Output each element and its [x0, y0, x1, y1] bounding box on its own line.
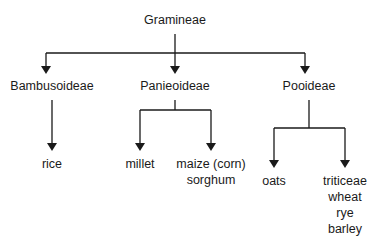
- node-label-line-2: wheat: [323, 189, 367, 205]
- node-oats: oats: [262, 173, 286, 189]
- node-gramineae: Gramineae: [144, 12, 206, 28]
- node-label-line-4: barley: [323, 221, 367, 237]
- arrow-to-bambusoideae: [41, 53, 51, 74]
- arrow-to-triticeae: [340, 128, 350, 168]
- node-label: Gramineae: [144, 12, 206, 28]
- node-triticeae: triticeae wheat rye barley: [323, 173, 367, 237]
- arrow-to-oats: [269, 128, 279, 168]
- node-label-line-1: triticeae: [323, 173, 367, 189]
- node-label: Pooideae: [283, 78, 336, 94]
- node-label-line-1: maize (corn): [176, 156, 245, 172]
- node-millet: millet: [125, 156, 154, 172]
- node-pooideae: Pooideae: [283, 78, 336, 94]
- arrow-to-millet: [135, 110, 145, 151]
- arrow-to-pooideae: [300, 53, 310, 74]
- node-label: oats: [262, 173, 286, 189]
- node-bambusoideae: Bambusoideae: [10, 78, 93, 94]
- node-label: rice: [42, 156, 62, 172]
- panieoideae-branch: [140, 100, 211, 110]
- pooideae-branch: [274, 100, 345, 128]
- arrow-to-panieoideae: [170, 53, 180, 74]
- node-label: millet: [125, 156, 154, 172]
- tree-edges: [0, 0, 378, 248]
- arrow-to-maize: [206, 110, 216, 151]
- node-label: Bambusoideae: [10, 78, 93, 94]
- node-label-line-2: sorghum: [176, 172, 245, 188]
- node-maize-sorghum: maize (corn) sorghum: [176, 156, 245, 188]
- arrow-to-rice: [47, 100, 57, 151]
- node-label: Panieoideae: [140, 78, 210, 94]
- node-rice: rice: [42, 156, 62, 172]
- node-panieoideae: Panieoideae: [140, 78, 210, 94]
- node-label-line-3: rye: [323, 205, 367, 221]
